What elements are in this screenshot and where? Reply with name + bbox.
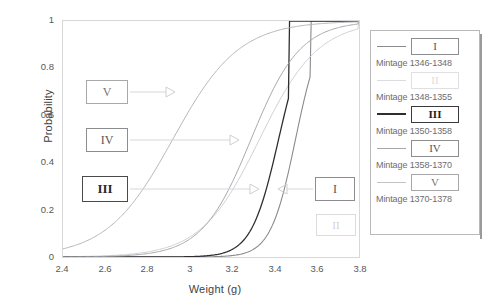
legend-caption-ii: Mintage 1348-1355 [376, 90, 474, 104]
y-tick-label: 0.2 [20, 205, 54, 215]
chart-figure: 1 0.8 0.6 0.4 0.2 0 Probability 2.4 2.6 … [0, 0, 493, 304]
legend-row: II [376, 70, 474, 90]
legend-row: I [376, 36, 474, 56]
legend-line-swatch [377, 148, 406, 149]
legend-symbol-iv: IV [411, 140, 459, 157]
legend-row: IV [376, 138, 474, 158]
legend-symbol-i: I [411, 38, 459, 55]
legend-caption-v: Mintage 1370-1378 [376, 192, 474, 206]
annotation-box-i: I [315, 177, 355, 201]
legend-line-swatch [377, 46, 406, 47]
x-tick-label: 2.8 [132, 264, 162, 274]
legend-row: III [376, 104, 474, 124]
y-tick-label: 0 [20, 252, 54, 262]
x-tick-label: 3.8 [345, 264, 375, 274]
y-tick-label: 1 [20, 15, 54, 25]
x-axis-label: Weight (g) [140, 283, 290, 295]
x-tick-label: 2.6 [90, 264, 120, 274]
legend-symbol-ii: II [411, 72, 459, 89]
x-tick-label: 3.4 [260, 264, 290, 274]
legend-symbol-v: V [411, 174, 459, 191]
y-axis-label: Probability [42, 56, 54, 176]
annotation-box-v: V [86, 80, 128, 104]
x-tick-label: 3 [175, 264, 205, 274]
annotation-box-ii: II [316, 214, 356, 236]
x-tick-label: 3.2 [217, 264, 247, 274]
legend-caption-i: Mintage 1346-1348 [376, 56, 474, 70]
legend-caption-iii: Mintage 1350-1358 [376, 124, 474, 138]
legend-symbol-iii: III [411, 106, 459, 123]
x-tick-label: 3.6 [302, 264, 332, 274]
legend-caption-iv: Mintage 1358-1370 [376, 158, 474, 172]
annotation-box-iv: IV [86, 128, 128, 152]
legend-line-swatch [377, 182, 406, 183]
annotation-box-iii: III [82, 176, 128, 202]
legend: I Mintage 1346-1348 II Mintage 1348-1355… [370, 30, 480, 235]
legend-line-swatch [377, 113, 406, 115]
legend-row: V [376, 172, 474, 192]
x-tick-label: 2.4 [47, 264, 77, 274]
legend-line-swatch [377, 80, 406, 81]
